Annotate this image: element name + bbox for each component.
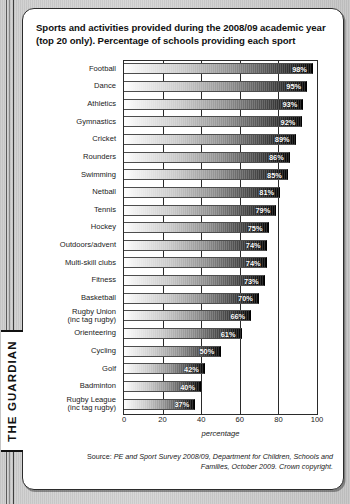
bar-row: 74% — [124, 257, 317, 268]
bar-texture — [124, 223, 268, 232]
guardian-nameplate-label: THE GUARDIAN — [6, 340, 18, 441]
bar — [124, 187, 280, 198]
bar-texture — [124, 64, 312, 73]
x-tick-label: 60 — [236, 415, 244, 424]
bar — [124, 116, 302, 127]
bar-row: 75% — [124, 222, 317, 233]
bar — [124, 205, 276, 216]
category-label: Badminton — [80, 382, 116, 390]
bar-texture — [124, 100, 302, 109]
bar-row: 50% — [124, 346, 317, 357]
x-tick-label: 20 — [158, 415, 166, 424]
category-label: Outdoors/advent — [60, 241, 116, 249]
bar-texture — [124, 82, 306, 91]
bar-texture — [124, 170, 287, 179]
bar-value-label: 66% — [230, 311, 245, 320]
category-label: Hockey — [91, 223, 116, 231]
bar-value-label: 61% — [221, 329, 236, 338]
category-label: Rounders — [83, 153, 116, 161]
category-label: Netball — [92, 188, 116, 196]
bar-texture — [124, 206, 275, 215]
bar-value-label: 95% — [286, 82, 301, 91]
bar-row: 66% — [124, 310, 317, 321]
bar-row: 86% — [124, 152, 317, 163]
bar-row: 92% — [124, 116, 317, 127]
bar-row: 42% — [124, 363, 317, 374]
bar-row: 98% — [124, 63, 317, 74]
bar-row: 74% — [124, 240, 317, 251]
bar — [124, 152, 290, 163]
bar-row: 61% — [124, 328, 317, 339]
bar-value-label: 79% — [255, 206, 270, 215]
bar-value-label: 93% — [282, 100, 297, 109]
x-tick-label: 40 — [197, 415, 205, 424]
bar-value-label: 86% — [269, 153, 284, 162]
bar-row: 70% — [124, 293, 317, 304]
bar-texture — [124, 117, 301, 126]
category-label: Basketball — [81, 294, 116, 302]
bar — [124, 63, 313, 74]
bar-texture — [124, 241, 266, 250]
chart-panel: Sports and activities provided during th… — [22, 8, 344, 490]
category-label: Tennis — [94, 206, 116, 214]
bar-texture — [124, 188, 279, 197]
category-label: Football — [89, 65, 116, 73]
bar-row: 79% — [124, 205, 317, 216]
bar-value-label: 92% — [281, 117, 296, 126]
category-label: Golf — [102, 365, 116, 373]
bar-row: 89% — [124, 134, 317, 145]
guardian-nameplate: THE GUARDIAN — [1, 330, 23, 452]
bar-value-label: 74% — [246, 241, 261, 250]
category-label: Fitness — [92, 276, 116, 284]
bar-row: 93% — [124, 99, 317, 110]
bar-value-label: 50% — [200, 347, 215, 356]
bar-value-label: 37% — [174, 400, 189, 409]
category-label: Cricket — [92, 135, 116, 143]
bar-value-label: 40% — [180, 382, 195, 391]
bar-value-label: 75% — [248, 223, 263, 232]
bar-value-label: 70% — [238, 294, 253, 303]
bar-texture — [124, 153, 289, 162]
bar-texture — [124, 135, 295, 144]
x-axis-tick-labels: 020406080100 — [124, 415, 317, 429]
bar — [124, 169, 288, 180]
category-label: Dance — [94, 82, 116, 90]
category-label: Gymnastics — [76, 118, 116, 126]
source-label: Source: — [87, 452, 112, 461]
source-note: Source: PE and Sport Survey 2008/09, Dep… — [79, 452, 333, 471]
category-label: Rugby Union (inc tag rugby) — [67, 308, 116, 325]
bar-value-label: 42% — [184, 364, 199, 373]
bar-row: 81% — [124, 187, 317, 198]
source-text: PE and Sport Survey 2008/09, Department … — [112, 452, 333, 471]
category-label: Rugby League (inc tag rugby) — [67, 396, 116, 413]
bar-row: 85% — [124, 169, 317, 180]
bar-row: 73% — [124, 275, 317, 286]
bar-value-label: 89% — [275, 135, 290, 144]
bar — [124, 81, 307, 92]
chart-title: Sports and activities provided during th… — [36, 21, 328, 47]
category-label: Multi-skill clubs — [65, 259, 116, 267]
bar-row: 40% — [124, 381, 317, 392]
category-axis-labels: FootballDanceAthleticsGymnasticsCricketR… — [31, 60, 120, 413]
category-label: Cycling — [91, 347, 116, 355]
bar-value-label: 74% — [246, 258, 261, 267]
bar-value-label: 81% — [259, 188, 274, 197]
category-label: Orienteering — [74, 329, 116, 337]
category-label: Athletics — [87, 100, 116, 108]
bar-value-label: 73% — [244, 276, 259, 285]
bar-row: 95% — [124, 81, 317, 92]
bar-row: 37% — [124, 399, 317, 410]
x-tick-label: 100 — [311, 415, 324, 424]
bar-series: 98%95%93%92%89%86%85%81%79%75%74%74%73%7… — [124, 60, 317, 413]
bar-texture — [124, 258, 266, 267]
category-label: Swimming — [81, 171, 116, 179]
bar-value-label: 85% — [267, 170, 282, 179]
bar-value-label: 98% — [292, 64, 307, 73]
x-axis-title: percentage — [124, 429, 317, 438]
bar — [124, 134, 296, 145]
x-tick-label: 0 — [122, 415, 126, 424]
bar — [124, 99, 303, 110]
x-tick-label: 80 — [274, 415, 282, 424]
